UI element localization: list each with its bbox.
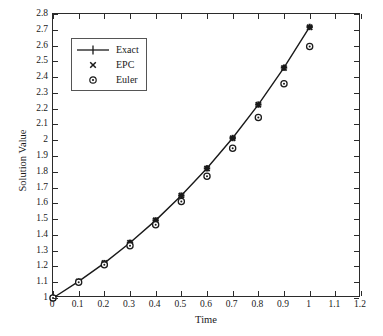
chart-legend: Exact EPC Euler [71,38,147,91]
x-tick [53,291,54,296]
x-tick [181,14,182,19]
marker-circle [101,262,107,268]
y-tick [354,156,359,157]
x-tick-label: 0.9 [277,299,289,310]
y-tick [354,109,359,110]
marker-circle [255,114,261,120]
y-tick-label: 2.8 [48,8,60,19]
x-tick [361,14,362,19]
y-tick-label: 1 [48,292,53,303]
y-axis-title: Solution Value [17,101,28,221]
x-tick [233,291,234,296]
marker-circle [307,43,313,49]
legend-label-euler: Euler [110,74,138,85]
x-tick [258,14,259,19]
x-tick [284,14,285,19]
y-tick-label: 2.6 [48,39,60,50]
y-tick-label: 1.9 [48,150,60,161]
y-tick-label: 2.3 [48,86,60,97]
x-tick-label: 1.2 [354,299,366,310]
x-tick [79,14,80,19]
y-tick-label: 2 [48,134,53,145]
y-tick-label: 1.3 [48,244,60,255]
y-tick [354,93,359,94]
x-tick [207,291,208,296]
x-tick-label: 0.6 [200,299,212,310]
x-tick-label: 0.7 [226,299,238,310]
legend-label-exact: Exact [110,44,139,55]
x-tick [335,14,336,19]
legend-key-epc-cross-icon [76,58,110,72]
y-tick [354,266,359,267]
x-tick [130,14,131,19]
y-tick [53,140,58,141]
y-tick-label: 1.8 [48,165,60,176]
marker-circle [230,145,236,151]
x-tick [104,291,105,296]
y-tick [354,172,359,173]
y-tick-label: 1.5 [48,213,60,224]
x-tick-label: 0.4 [149,299,161,310]
x-tick [207,14,208,19]
y-tick [354,235,359,236]
y-tick [354,46,359,47]
x-tick [361,291,362,296]
y-tick [354,140,359,141]
x-tick [310,291,311,296]
x-tick-label: 0.5 [174,299,186,310]
y-tick-label: 2.5 [48,55,60,66]
x-tick-label: 0.1 [72,299,84,310]
y-tick-label: 1.7 [48,181,60,192]
y-tick [354,219,359,220]
marker-circle [281,81,287,87]
y-tick [354,30,359,31]
x-tick-label: 0.2 [97,299,109,310]
y-tick [354,282,359,283]
y-tick-label: 2.7 [48,23,60,34]
legend-label-epc: EPC [110,59,134,70]
marker-circle [127,243,133,249]
legend-item-euler: Euler [76,72,139,87]
y-tick [354,61,359,62]
plot-area: Exact EPC Euler [52,13,360,297]
x-tick-label: 0.8 [251,299,263,310]
x-tick [156,291,157,296]
x-axis-title: Time [52,314,360,325]
legend-item-exact: Exact [76,42,139,57]
y-tick [354,124,359,125]
y-tick-label: 1.1 [48,276,60,287]
y-tick [354,14,359,15]
x-tick [335,291,336,296]
x-tick-label: 0.3 [123,299,135,310]
x-tick [130,291,131,296]
y-tick-label: 1.6 [48,197,60,208]
marker-circle [153,222,159,228]
x-tick [181,291,182,296]
x-tick [233,14,234,19]
x-tick [284,291,285,296]
x-tick [79,291,80,296]
legend-item-epc: EPC [76,57,139,72]
y-tick-label: 2.1 [48,118,60,129]
y-tick-label: 2.2 [48,102,60,113]
y-tick [354,251,359,252]
y-tick [354,77,359,78]
x-tick-label: 1 [306,299,311,310]
legend-key-euler-circle-icon [76,73,110,87]
x-tick [258,291,259,296]
y-tick [354,188,359,189]
y-tick [354,203,359,204]
chart-figure: Exact EPC Euler Time Solution Value 00.1… [0,0,383,336]
marker-circle [76,279,82,285]
y-tick-label: 1.4 [48,228,60,239]
x-tick [310,14,311,19]
marker-circle [204,173,210,179]
y-tick-label: 1.2 [48,260,60,271]
x-tick [104,14,105,19]
x-tick-label: 1.1 [328,299,340,310]
y-tick-label: 2.4 [48,71,60,82]
legend-key-exact-line-plus-icon [76,43,110,57]
marker-circle [178,198,184,204]
x-tick [156,14,157,19]
